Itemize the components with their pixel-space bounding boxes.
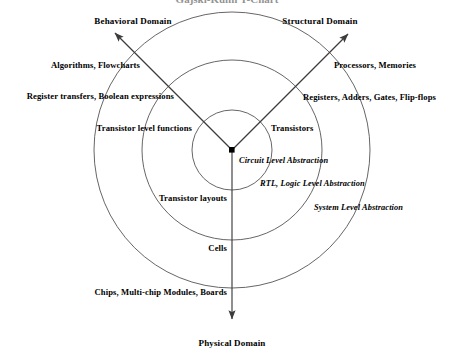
- structural-level-transistors: Transistors: [271, 124, 313, 133]
- y-chart-graphics: [0, 0, 454, 362]
- physical-level-cells: Cells: [208, 244, 227, 253]
- physical-level-chips-modules-boards: Chips, Multi-chip Modules, Boards: [95, 288, 227, 297]
- axis-lines: [115, 33, 348, 319]
- center-origin-marker: [229, 147, 235, 153]
- abstraction-circuit-level: Circuit Level Abstraction: [239, 157, 328, 165]
- physical-domain-label: Physical Domain: [198, 339, 265, 348]
- physical-level-transistor-layouts: Transistor layouts: [159, 194, 227, 203]
- behavioral-domain-label: Behavioral Domain: [94, 17, 171, 26]
- abstraction-system-level: System Level Abstraction: [314, 204, 403, 212]
- structural-level-processors: Processors, Memories: [334, 61, 416, 70]
- behavioral-level-register-transfers: Register transfers, Boolean expressions: [27, 92, 174, 101]
- structural-level-registers: Registers, Adders, Gates, Flip-flops: [303, 93, 436, 102]
- behavioral-level-algorithms: Algorithms, Flowcharts: [51, 61, 140, 70]
- behavioral-level-transistor-functions: Transistor level functions: [97, 124, 192, 133]
- abstraction-rtl-logic-level: RTL, Logic Level Abstraction: [260, 180, 365, 188]
- y-chart-diagram: Gajski-Kuhn Y-Chart Behavioral Domain St…: [0, 0, 454, 362]
- structural-domain-label: Structural Domain: [282, 17, 357, 26]
